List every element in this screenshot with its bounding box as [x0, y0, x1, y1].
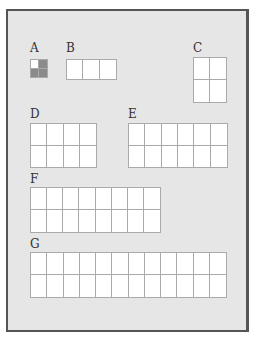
grid-cell: [79, 210, 95, 232]
grid-cell: [83, 60, 99, 79]
block-label-a: A: [30, 42, 39, 54]
grid-cell: [31, 124, 47, 146]
grid-cell: [177, 253, 193, 275]
grid-cell: [194, 58, 210, 80]
grid-cell: [64, 253, 80, 275]
grid-block-b: [66, 59, 117, 80]
grid-block-d: [30, 123, 97, 168]
grid-block-c: [193, 57, 227, 103]
grid-cell: [129, 146, 145, 168]
grid-cell: [112, 275, 128, 297]
grid-cell: [31, 275, 47, 297]
grid-cell: [47, 124, 63, 146]
grid-cell: [128, 188, 144, 210]
grid-cell: [31, 253, 47, 275]
grid-cell: [177, 275, 193, 297]
grid-block-e: [128, 123, 228, 168]
grid-cell: [63, 188, 79, 210]
grid-cell: [80, 275, 96, 297]
grid-cell: [112, 210, 128, 232]
grid-cell: [178, 146, 194, 168]
grid-cell: [31, 188, 47, 210]
grid-cell: [145, 146, 161, 168]
grid-cell: [64, 124, 80, 146]
grid-cell: [47, 210, 63, 232]
block-label-d: D: [30, 108, 40, 120]
grid-cell: [210, 58, 226, 80]
grid-cell: [211, 146, 227, 168]
grid-cell: [112, 188, 128, 210]
grid-cell: [161, 275, 177, 297]
grid-cell: [162, 124, 178, 146]
grid-cell: [145, 124, 161, 146]
grid-cell: [210, 275, 226, 297]
grid-cell: [80, 253, 96, 275]
grid-cell: [47, 275, 63, 297]
grid-cell: [129, 124, 145, 146]
grid-cell: [96, 275, 112, 297]
grid-cell: [112, 253, 128, 275]
grid-cell: [194, 253, 210, 275]
grid-cell: [162, 146, 178, 168]
grid-cell: [39, 69, 47, 78]
grid-cell: [79, 188, 95, 210]
grid-cell: [64, 146, 80, 168]
grid-cell: [144, 188, 160, 210]
grid-cell: [210, 253, 226, 275]
grid-cell: [63, 210, 79, 232]
grid-cell: [210, 80, 226, 102]
block-label-b: B: [66, 42, 75, 54]
grid-cell: [80, 124, 96, 146]
grid-cell: [80, 146, 96, 168]
grid-cell: [128, 210, 144, 232]
grid-cell: [145, 275, 161, 297]
grid-block-g: [30, 252, 227, 298]
grid-cell: [31, 69, 39, 78]
grid-cell: [96, 210, 112, 232]
grid-cell: [100, 60, 116, 79]
block-label-f: F: [30, 173, 38, 185]
grid-cell: [161, 253, 177, 275]
grid-cell: [64, 275, 80, 297]
grid-cell: [39, 60, 47, 69]
grid-cell: [194, 80, 210, 102]
grid-cell: [194, 146, 210, 168]
grid-cell: [31, 146, 47, 168]
grid-cell: [31, 60, 39, 69]
grid-block-f: [30, 187, 161, 233]
grid-cell: [31, 210, 47, 232]
block-label-g: G: [30, 238, 40, 250]
block-label-c: C: [193, 42, 202, 54]
grid-cell: [144, 210, 160, 232]
grid-block-a: [30, 59, 48, 78]
grid-cell: [96, 188, 112, 210]
grid-cell: [211, 124, 227, 146]
block-label-e: E: [128, 108, 137, 120]
grid-cell: [194, 124, 210, 146]
grid-cell: [47, 188, 63, 210]
grid-cell: [194, 275, 210, 297]
grid-cell: [178, 124, 194, 146]
grid-cell: [96, 253, 112, 275]
grid-cell: [67, 60, 83, 79]
grid-cell: [129, 253, 145, 275]
grid-cell: [47, 146, 63, 168]
grid-cell: [47, 253, 63, 275]
grid-cell: [129, 275, 145, 297]
grid-cell: [145, 253, 161, 275]
